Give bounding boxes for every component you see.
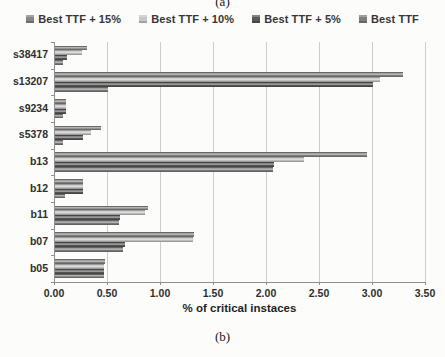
legend-item-best-ttf-15: Best TTF + 15%	[26, 13, 121, 25]
y-axis-tick	[51, 149, 54, 150]
legend-swatch-icon	[359, 15, 367, 23]
bar-b13-series-3	[55, 167, 273, 172]
legend-label: Best TTF	[371, 13, 419, 25]
y-axis-tick	[51, 229, 54, 230]
x-axis-tick-label: 3.50	[405, 287, 445, 299]
legend-label: Best TTF + 10%	[151, 13, 234, 25]
x-axis-line	[51, 282, 425, 283]
subfigure-label-a: (a)	[0, 0, 445, 10]
bar-s13207-series-3	[55, 87, 108, 92]
y-axis-tick	[51, 175, 54, 176]
x-axis-title: % of critical instaces	[120, 302, 360, 314]
category-label: b07	[0, 235, 48, 247]
y-axis-tick	[51, 122, 54, 123]
x-axis-tick-label: 2.50	[299, 287, 339, 299]
legend-swatch-icon	[139, 15, 147, 23]
y-axis-tick	[51, 95, 54, 96]
legend: Best TTF + 15% Best TTF + 10% Best TTF +…	[0, 13, 445, 25]
x-axis-tick-label: 0.00	[34, 287, 74, 299]
x-axis-tick-label: 0.50	[87, 287, 127, 299]
category-label: b13	[0, 155, 48, 167]
x-axis-tick	[425, 282, 426, 285]
legend-label: Best TTF + 5%	[264, 13, 341, 25]
bar-s38417-series-3	[55, 60, 63, 65]
subfigure-label-b: (b)	[0, 329, 445, 345]
y-axis-tick	[51, 42, 54, 43]
category-label: s5378	[0, 128, 48, 140]
figure-panel-b: (a) Best TTF + 15% Best TTF + 10% Best T…	[0, 0, 445, 357]
category-label: s9234	[0, 102, 48, 114]
bar-s9234-series-3	[55, 114, 63, 119]
y-axis-tick	[51, 255, 54, 256]
category-label: s13207	[0, 75, 48, 87]
category-label: b11	[0, 208, 48, 220]
x-axis-tick-label: 1.00	[140, 287, 180, 299]
legend-item-best-ttf-5: Best TTF + 5%	[252, 13, 341, 25]
gridline	[425, 42, 426, 282]
legend-item-best-ttf: Best TTF	[359, 13, 419, 25]
bar-b05-series-3	[55, 274, 104, 279]
category-label: s38417	[0, 48, 48, 60]
y-axis-tick	[51, 282, 54, 283]
x-axis-tick-label: 3.00	[352, 287, 392, 299]
x-axis-tick-label: 2.00	[246, 287, 286, 299]
bar-s5378-series-3	[55, 140, 63, 145]
legend-item-best-ttf-10: Best TTF + 10%	[139, 13, 234, 25]
x-axis-tick-label: 1.50	[193, 287, 233, 299]
legend-label: Best TTF + 15%	[38, 13, 121, 25]
category-label: b12	[0, 182, 48, 194]
legend-swatch-icon	[26, 15, 34, 23]
legend-swatch-icon	[252, 15, 260, 23]
bar-b11-series-3	[55, 220, 119, 225]
bar-b12-series-3	[55, 194, 65, 199]
bar-b07-series-3	[55, 247, 123, 252]
y-axis-tick	[51, 69, 54, 70]
category-label: b05	[0, 262, 48, 274]
y-axis-tick	[51, 202, 54, 203]
